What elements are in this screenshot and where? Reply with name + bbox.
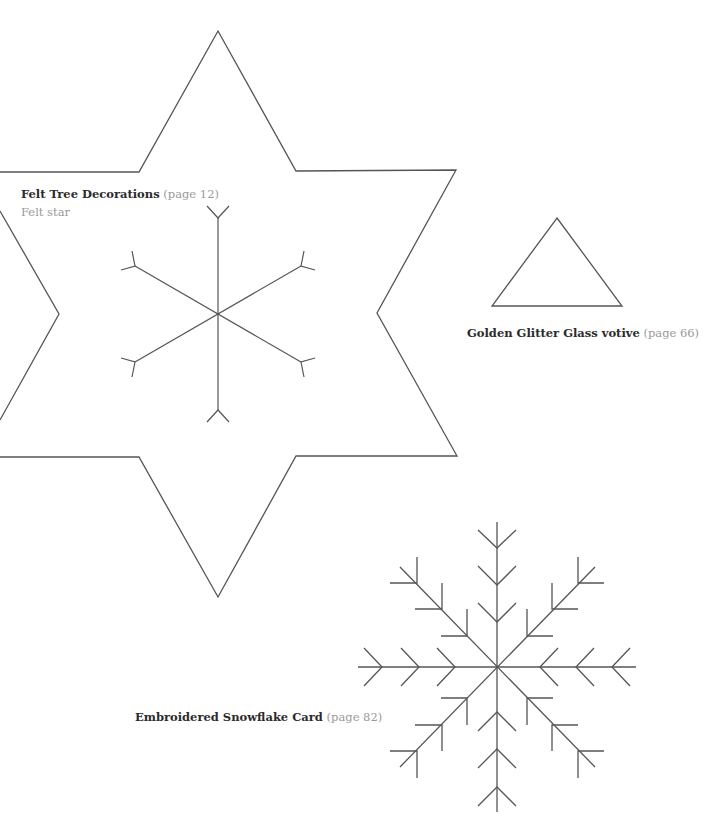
votive-title: Golden Glitter Glass votive: [467, 326, 640, 340]
snowflake-card-title: Embroidered Snowflake Card: [135, 710, 323, 724]
felt-star-page-ref: (page 12): [163, 187, 219, 201]
votive-caption: Golden Glitter Glass votive (page 66): [467, 324, 699, 342]
felt-star-title: Felt Tree Decorations: [21, 187, 160, 201]
felt-star-outline: [0, 31, 457, 597]
felt-star-snowflake: [121, 206, 315, 422]
votive-page-ref: (page 66): [643, 326, 699, 340]
snowflake-card-page-ref: (page 82): [327, 710, 383, 724]
votive-triangle: [492, 218, 622, 306]
felt-star-subtitle: Felt star: [21, 205, 70, 219]
snowflake-card-caption: Embroidered Snowflake Card (page 82): [135, 708, 382, 726]
felt-star-caption: Felt Tree Decorations (page 12): [21, 185, 219, 203]
embroidered-snowflake: [358, 522, 636, 812]
template-sheet: [0, 0, 704, 828]
